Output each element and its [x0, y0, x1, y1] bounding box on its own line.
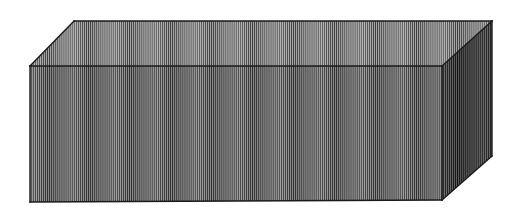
top-face — [30, 21, 492, 66]
front-face — [30, 66, 442, 202]
cuboid-illustration — [0, 0, 507, 220]
faces-group — [30, 21, 492, 202]
figure-canvas — [0, 0, 507, 220]
